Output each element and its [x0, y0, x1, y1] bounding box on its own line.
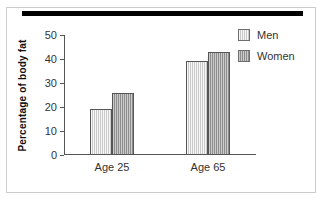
- y-axis-line: [64, 35, 65, 155]
- plot-area: 01020304050: [64, 35, 256, 155]
- legend-label-women: Women: [257, 51, 295, 62]
- y-tick: [60, 155, 64, 156]
- chart-figure: Percentage of body fat 01020304050 Age 2…: [0, 0, 324, 201]
- legend-label-men: Men: [257, 30, 278, 41]
- y-tick-label: 30: [45, 78, 57, 89]
- chart-legend: Men Women: [238, 29, 295, 71]
- y-tick-label: 0: [51, 150, 57, 161]
- y-axis-title-label: Percentage of body fat: [17, 39, 28, 151]
- y-tick-label: 20: [45, 102, 57, 113]
- women-swatch-icon: [238, 50, 250, 62]
- men-swatch-icon: [238, 29, 250, 41]
- y-tick: [60, 35, 64, 36]
- y-axis-title: Percentage of body fat: [14, 35, 30, 155]
- y-tick: [60, 107, 64, 108]
- legend-item-men: Men: [238, 29, 295, 41]
- x-axis-label-age-25: Age 25: [95, 162, 130, 173]
- y-tick: [60, 83, 64, 84]
- bar-men-age-65: [186, 61, 208, 155]
- y-tick-label: 50: [45, 30, 57, 41]
- bar-men-age-25: [90, 109, 112, 155]
- x-axis-label-age-65: Age 65: [191, 162, 226, 173]
- y-tick-label: 40: [45, 54, 57, 65]
- y-tick: [60, 59, 64, 60]
- bar-women-age-65: [208, 52, 230, 155]
- legend-item-women: Women: [238, 50, 295, 62]
- y-tick-label: 10: [45, 126, 57, 137]
- top-black-rule: [22, 11, 303, 16]
- bar-women-age-25: [112, 93, 134, 155]
- y-tick: [60, 131, 64, 132]
